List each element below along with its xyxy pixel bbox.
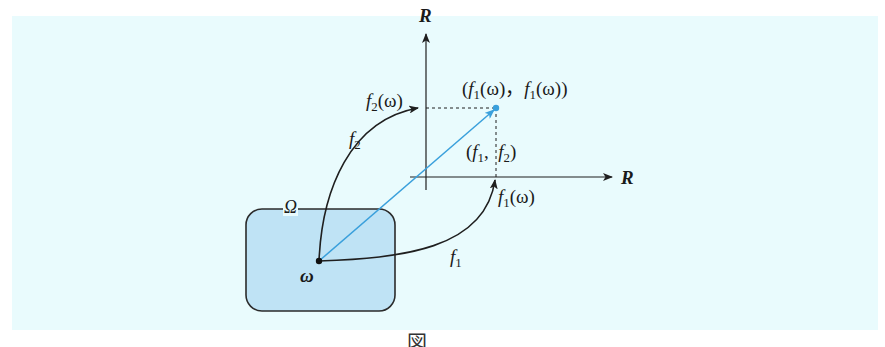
vertical-axis-label: R [419,6,432,25]
point-separator: ， [505,78,524,99]
f1-map-sub: 1 [455,255,461,270]
f2-map-sub: 2 [354,137,360,152]
point-arg-a: (ω) [480,78,505,99]
f1-map-label: f1 [450,247,462,270]
f2-omega-label: f2(ω) [366,91,403,114]
image-point [493,105,499,111]
omega-point-label: ω [300,266,314,285]
f1-omega-label: f1(ω) [498,187,535,210]
pair-map-label: (f1, f2) [466,142,516,165]
figure-caption: 図 [407,333,429,347]
horizontal-axis-label: R [621,168,634,187]
f2-map-label: f2 [349,129,361,152]
pair-separator: , [484,141,489,162]
point-arg-b: (ω)) [536,78,568,99]
f1-omega-arg: (ω) [510,186,535,207]
pair-close-paren: ) [510,141,516,162]
omega-point [316,258,322,264]
f2-omega-arg: (ω) [378,90,403,111]
omega-set-label: Ω [283,198,298,216]
pair-map-arrow [319,110,494,261]
image-point-label: (f1(ω)，f1(ω)) [462,79,567,102]
